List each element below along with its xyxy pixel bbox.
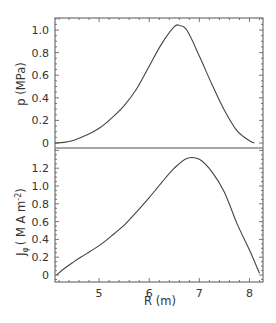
- bottom-y-tick-label: 0.8: [32, 198, 50, 211]
- plot-border: [55, 18, 263, 282]
- x-tick-label: 7: [196, 287, 203, 300]
- tick-labels: 00.20.40.60.81.000.20.40.60.81.01.25678: [32, 24, 253, 300]
- bottom-y-tick-label: 1.0: [32, 180, 50, 193]
- x-tick-label: 5: [96, 287, 103, 300]
- bottom-y-tick-label: 0.6: [32, 216, 50, 229]
- top-y-tick-label: 0.4: [32, 92, 50, 105]
- bottom-y-tick-label: 0: [42, 269, 49, 282]
- top-y-tick-label: 0.2: [32, 114, 50, 127]
- bottom-y-axis-label: Jφ( M A m-2): [14, 188, 30, 257]
- current-density-curve: [57, 157, 260, 275]
- top-y-tick-label: 0.6: [32, 69, 50, 82]
- top-y-axis-label: p (MPa): [14, 62, 28, 105]
- bottom-y-tick-label: 0.4: [32, 233, 50, 246]
- x-tick-label: 8: [246, 287, 253, 300]
- figure: 00.20.40.60.81.000.20.40.60.81.01.25678 …: [0, 0, 276, 323]
- plot-frames: [55, 18, 263, 282]
- top-y-tick-label: 1.0: [32, 24, 50, 37]
- top-y-tick-label: 0.8: [32, 47, 50, 60]
- bottom-y-tick-label: 0.2: [32, 251, 50, 264]
- axis-ticks: [55, 18, 263, 282]
- pressure-curve: [55, 25, 255, 143]
- bottom-y-tick-label: 1.2: [32, 162, 50, 175]
- x-axis-label: R (m): [144, 294, 176, 308]
- top-y-tick-label: 0: [42, 137, 49, 150]
